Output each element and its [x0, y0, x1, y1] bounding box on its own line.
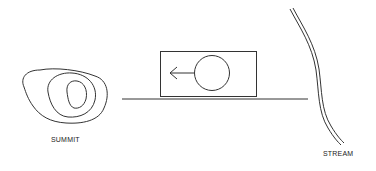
summit-middle-contour: [48, 73, 96, 117]
stream-line-left: [290, 9, 341, 145]
summit-inner-contour: [67, 81, 87, 108]
summit-label: SUMMIT: [51, 136, 80, 143]
summit-outer-contour: [23, 69, 107, 123]
diagram-canvas: [0, 0, 376, 171]
stream-label: STREAM: [323, 150, 353, 157]
wheel-circle: [195, 56, 230, 91]
